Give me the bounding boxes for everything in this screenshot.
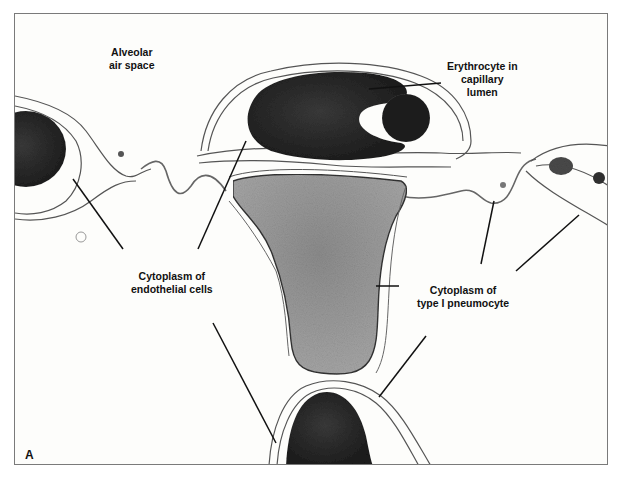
label-line: capillary — [447, 73, 518, 86]
micrograph-image — [15, 14, 608, 465]
nucleus — [233, 174, 406, 374]
label-line: air space — [109, 59, 155, 72]
label-erythrocyte: Erythrocyte in capillary lumen — [447, 60, 518, 99]
erythrocyte-upper-fold — [382, 94, 430, 142]
label-line: type I pneumocyte — [417, 297, 509, 310]
leader-pneumocyte-lower — [379, 336, 426, 397]
label-endothelial-cytoplasm: Cytoplasm of endothelial cells — [131, 270, 213, 296]
label-line: Cytoplasm of — [131, 270, 213, 283]
label-line: lumen — [447, 86, 518, 99]
label-line: Cytoplasm of — [417, 284, 509, 297]
right-capillary — [526, 144, 608, 226]
label-line: Alveolar — [109, 46, 155, 59]
leader-endothelial-left — [73, 179, 123, 249]
label-pneumocyte-cytoplasm: Cytoplasm of type I pneumocyte — [417, 284, 509, 310]
label-line: Erythrocyte in — [447, 60, 518, 73]
panel-letter: A — [25, 448, 34, 462]
leader-endothelial-lower — [213, 323, 276, 443]
leader-pneumocyte-right — [516, 215, 579, 271]
leader-pneumocyte-mid — [481, 201, 494, 264]
label-alveolar-air-space: Alveolar air space — [109, 46, 155, 72]
micrograph-figure: Alveolar air space Erythrocyte in capill… — [14, 13, 608, 465]
label-line: endothelial cells — [131, 283, 213, 296]
